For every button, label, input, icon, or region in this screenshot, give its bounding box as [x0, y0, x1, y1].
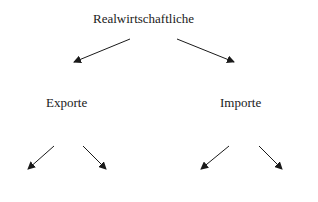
- arrows-layer: [0, 0, 318, 202]
- arrow-importe-right: [259, 146, 282, 169]
- arrow-exporte-left: [28, 146, 54, 169]
- arrow-importe-left: [201, 146, 229, 169]
- arrow-root-to-importe: [177, 39, 234, 62]
- arrow-exporte-right: [83, 146, 106, 169]
- arrow-root-to-exporte: [74, 39, 130, 62]
